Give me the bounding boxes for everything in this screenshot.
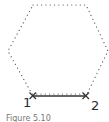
figure-caption: Figure 5.10 (6, 115, 51, 122)
point-2-label: 2 (91, 99, 99, 112)
dotted-hexagon (8, 5, 108, 94)
point-1-label: 1 (23, 96, 31, 109)
